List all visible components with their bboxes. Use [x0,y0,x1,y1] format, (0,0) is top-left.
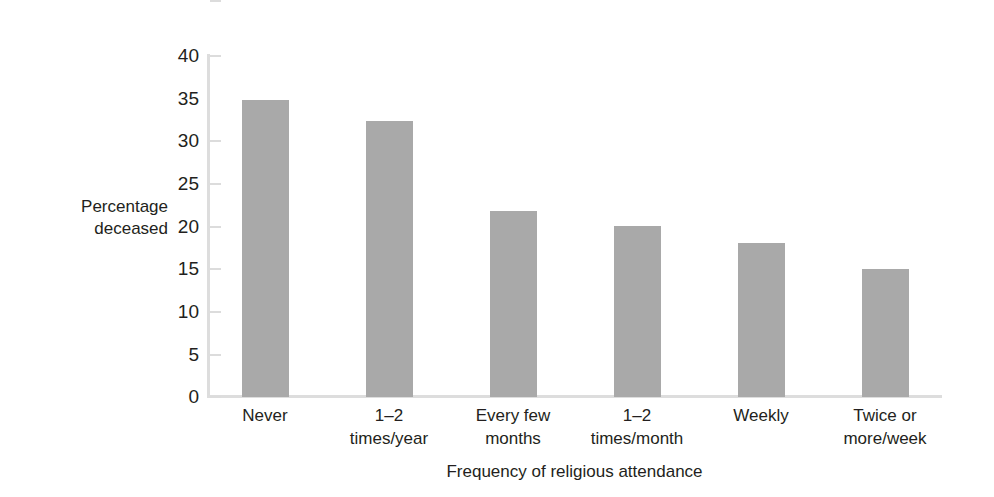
x-tick-label: 1–2 times/year [324,404,454,450]
x-tick-label: Twice or more/week [820,404,950,450]
x-tick-label: Never [200,404,330,427]
x-tick-label: Weekly [696,404,826,427]
y-tick-mark [210,226,221,228]
y-tick-mark [210,311,221,313]
y-tick-label: 15 [155,259,199,278]
plot-area: 0 5 10 15 20 25 30 35 40 Never 1–2 times… [0,0,994,497]
y-tick-label: 20 [155,217,199,236]
y-tick-mark [210,183,221,185]
x-tick-label: Every few months [448,404,578,450]
y-tick-label: 10 [155,302,199,321]
y-tick-mark [210,396,221,398]
x-tick-label: 1–2 times/month [572,404,702,450]
bar-chart-figure: Percentage deceased 0 5 10 15 20 25 30 3… [0,0,994,497]
y-tick-label: 30 [155,131,199,150]
y-tick-label: 0 [155,387,199,406]
y-tick-label: 25 [155,174,199,193]
y-tick-label: 5 [155,345,199,364]
bar-twice-or-more-week [862,269,909,397]
y-tick-mark [210,268,221,270]
bar-never [242,100,289,397]
x-axis-line [207,395,942,398]
bar-1-2-times-month [614,226,661,397]
bar-1-2-times-year [366,121,413,397]
y-tick-label: 40 [155,46,199,65]
y-tick-mark [210,140,221,142]
bar-every-few-months [490,211,537,397]
y-tick-mark [210,55,221,57]
y-tick-mark [210,354,221,356]
x-axis-title: Frequency of religious attendance [207,462,942,482]
y-tick-mark [210,0,221,2]
y-tick-label: 35 [155,89,199,108]
bar-weekly [738,243,785,397]
